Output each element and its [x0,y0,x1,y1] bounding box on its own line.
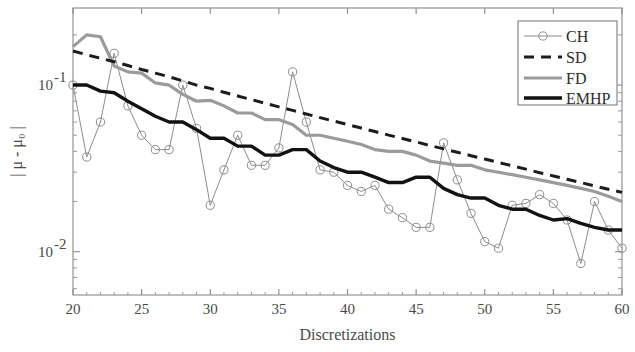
svg-text:10: 10 [38,244,53,260]
x-tick-label: 60 [615,301,630,317]
svg-text:-2: -2 [54,236,67,252]
x-axis-title: Discretizations [300,326,396,343]
x-tick-label: 30 [203,301,218,317]
y-axis-title: | μ - μ₀ | [8,126,26,176]
x-tick-label: 35 [271,301,286,317]
legend-label: CH [566,28,589,45]
chart-legend[interactable]: CHSDFDEMHP [518,21,617,107]
x-tick-label: 25 [134,301,149,317]
svg-text:-1: -1 [54,69,67,85]
figure: 202530354045505560 10-110-2 CHSDFDEMHP D… [0,0,635,352]
legend-label: EMHP [566,90,611,107]
svg-text:10: 10 [38,77,53,93]
x-tick-label: 45 [409,301,424,317]
legend-label: FD [566,70,586,87]
x-tick-label: 40 [340,301,355,317]
x-tick-label: 55 [546,301,561,317]
x-tick-label: 20 [66,301,81,317]
legend-label: SD [566,49,586,66]
chart-svg: 202530354045505560 10-110-2 CHSDFDEMHP D… [0,0,635,352]
x-tick-label: 50 [477,301,492,317]
